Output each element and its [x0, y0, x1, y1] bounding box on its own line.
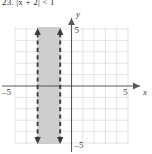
y-axis-tick-label-top: 5	[75, 25, 80, 35]
coordinate-graph: 5 –5 –5 5 y x	[0, 0, 152, 154]
x-axis-tick-label-left: –5	[1, 87, 12, 97]
figure-container: 23. |x + 2| < 1	[0, 0, 152, 154]
x-axis-arrow	[133, 83, 140, 90]
y-axis-variable-label: y	[75, 9, 80, 19]
graph-svg: 5 –5 –5 5 y x	[0, 0, 152, 154]
x-axis-tick-label-right: 5	[123, 87, 128, 97]
y-axis-tick-label-bottom: –5	[74, 140, 85, 150]
x-axis-variable-label: x	[142, 87, 147, 97]
y-axis-arrow	[68, 18, 75, 25]
